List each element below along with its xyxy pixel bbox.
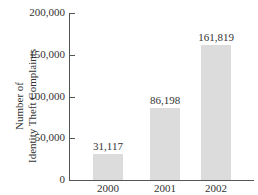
x-tick-label: 2000 [83,183,133,194]
bar-2000 [93,154,123,180]
x-axis [69,180,254,181]
bar-value-label: 161,819 [191,32,241,43]
y-tick-label: 0 [60,174,66,185]
y-tick-label: 200,000 [29,7,65,18]
y-tick [69,97,75,98]
bar-chart: Number of Identity Theft Complaints 050,… [0,0,258,195]
x-tick-label: 2001 [140,183,190,194]
y-tick-label: 150,000 [29,49,65,60]
x-tick-label: 2002 [191,183,241,194]
y-axis-label-line1: Number of [13,41,26,171]
y-axis-label: Number of Identity Theft Complaints [13,41,41,171]
y-tick-label: 50,000 [35,132,65,143]
y-axis-label-line2: Identity Theft Complaints [26,41,39,171]
y-tick [69,55,75,56]
y-tick [69,13,75,14]
bar-value-label: 31,117 [83,141,133,152]
bar-2001 [150,108,180,180]
y-tick [69,138,75,139]
bar-2002 [201,45,231,180]
y-tick-label: 100,000 [29,91,65,102]
bar-value-label: 86,198 [140,95,190,106]
